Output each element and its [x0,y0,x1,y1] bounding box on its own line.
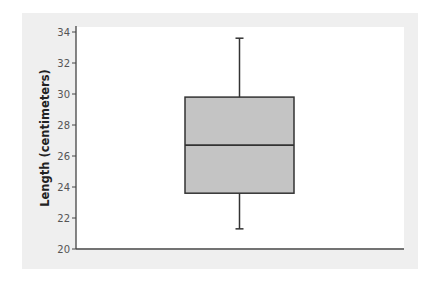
y-tick-label: 24 [57,182,70,193]
y-axis-label: Length (centimeters) [38,69,52,207]
y-tick-label: 34 [57,27,70,38]
y-tick-label: 32 [57,58,70,69]
y-tick-label: 22 [57,213,70,224]
boxes [185,38,294,229]
y-tick-label: 28 [57,120,70,131]
y-tick-label: 26 [57,151,70,162]
box-plot: 2022242628303234 [0,0,439,281]
y-tick-label: 20 [57,244,70,255]
y-tick-label: 30 [57,89,70,100]
